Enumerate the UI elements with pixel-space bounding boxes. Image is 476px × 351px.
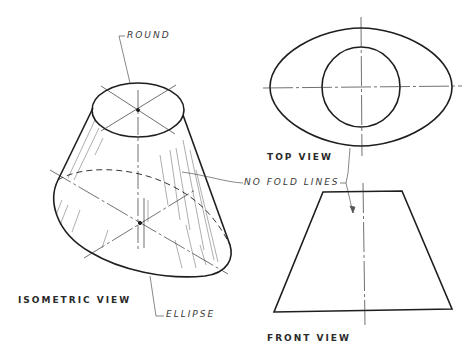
- ellipse-leader: [150, 276, 164, 316]
- top-view: [263, 17, 462, 156]
- round-callout: ROUND: [127, 30, 171, 40]
- ellipse-callout: ELLIPSE: [166, 309, 215, 319]
- front-view-label: FRONT VIEW: [267, 333, 351, 343]
- front-view: [274, 183, 452, 325]
- top-view-label: TOP VIEW: [267, 152, 333, 162]
- round-leader: [119, 36, 130, 83]
- isometric-view: [50, 83, 231, 277]
- bottom-ellipse: [54, 180, 231, 277]
- technical-drawing: ROUND TOP VIEW NO FOLD LINES ISOMETRIC V…: [0, 0, 476, 351]
- trapezoid: [274, 191, 452, 312]
- no-fold-lines-callout: NO FOLD LINES: [244, 177, 340, 187]
- left-silhouette: [58, 108, 93, 180]
- isometric-view-label: ISOMETRIC VIEW: [18, 295, 131, 305]
- no-fold-leader-right: [340, 148, 350, 183]
